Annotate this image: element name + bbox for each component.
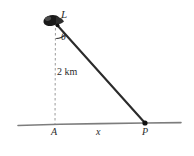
label-distance-x: x (96, 127, 100, 137)
label-lighthouse: L (61, 9, 67, 20)
label-height-2km: 2 km (57, 67, 77, 77)
label-point-a: A (51, 127, 57, 137)
label-point-p: P (142, 127, 148, 137)
point-p-marker (142, 120, 147, 125)
lighthouse-geometry-figure: L θ 2 km A x P (0, 0, 194, 156)
height-dashed-line (55, 23, 56, 124)
lamp-pivot-point (56, 23, 60, 27)
label-angle-theta: θ (61, 32, 66, 42)
